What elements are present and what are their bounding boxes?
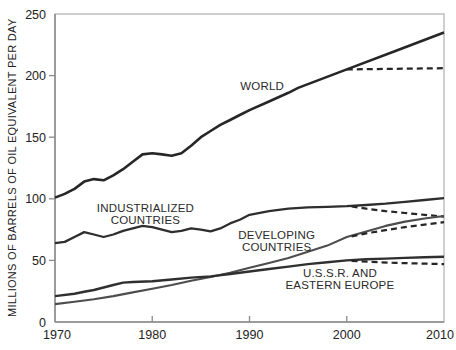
oil-demand-chart: MILLIONS OF BARRELS OF OIL EQUIVALENT PE…: [0, 0, 456, 350]
chart-canvas: 05010015020025019701980199020002010WORLD…: [0, 0, 456, 350]
series-u-s-s-r-and-eastern-europe-projection: [352, 261, 444, 264]
series-label: INDUSTRIALIZEDCOUNTRIES: [97, 202, 194, 226]
series-world-projection: [347, 68, 444, 69]
y-tick-label: 150: [25, 131, 46, 145]
series-label: DEVELOPINGCOUNTRIES: [238, 229, 315, 253]
series-industrialized-countries-projection: [352, 206, 444, 216]
x-tick-label: 2000: [333, 328, 361, 342]
x-tick-label: 2010: [426, 328, 454, 342]
y-tick-label: 250: [25, 8, 46, 22]
y-tick-label: 100: [25, 192, 46, 206]
x-tick-label: 1990: [236, 328, 264, 342]
x-tick-label: 1980: [138, 328, 166, 342]
y-tick-label: 50: [32, 254, 46, 268]
series-developing-countries-projection: [352, 222, 444, 236]
y-tick-label: 200: [25, 69, 46, 83]
series-world: [55, 33, 444, 198]
x-tick-label: 1970: [43, 328, 71, 342]
plot-border: [55, 14, 444, 322]
series-label: WORLD: [240, 80, 284, 92]
series-label: U.S.S.R. ANDEASTERN EUROPE: [285, 267, 394, 291]
